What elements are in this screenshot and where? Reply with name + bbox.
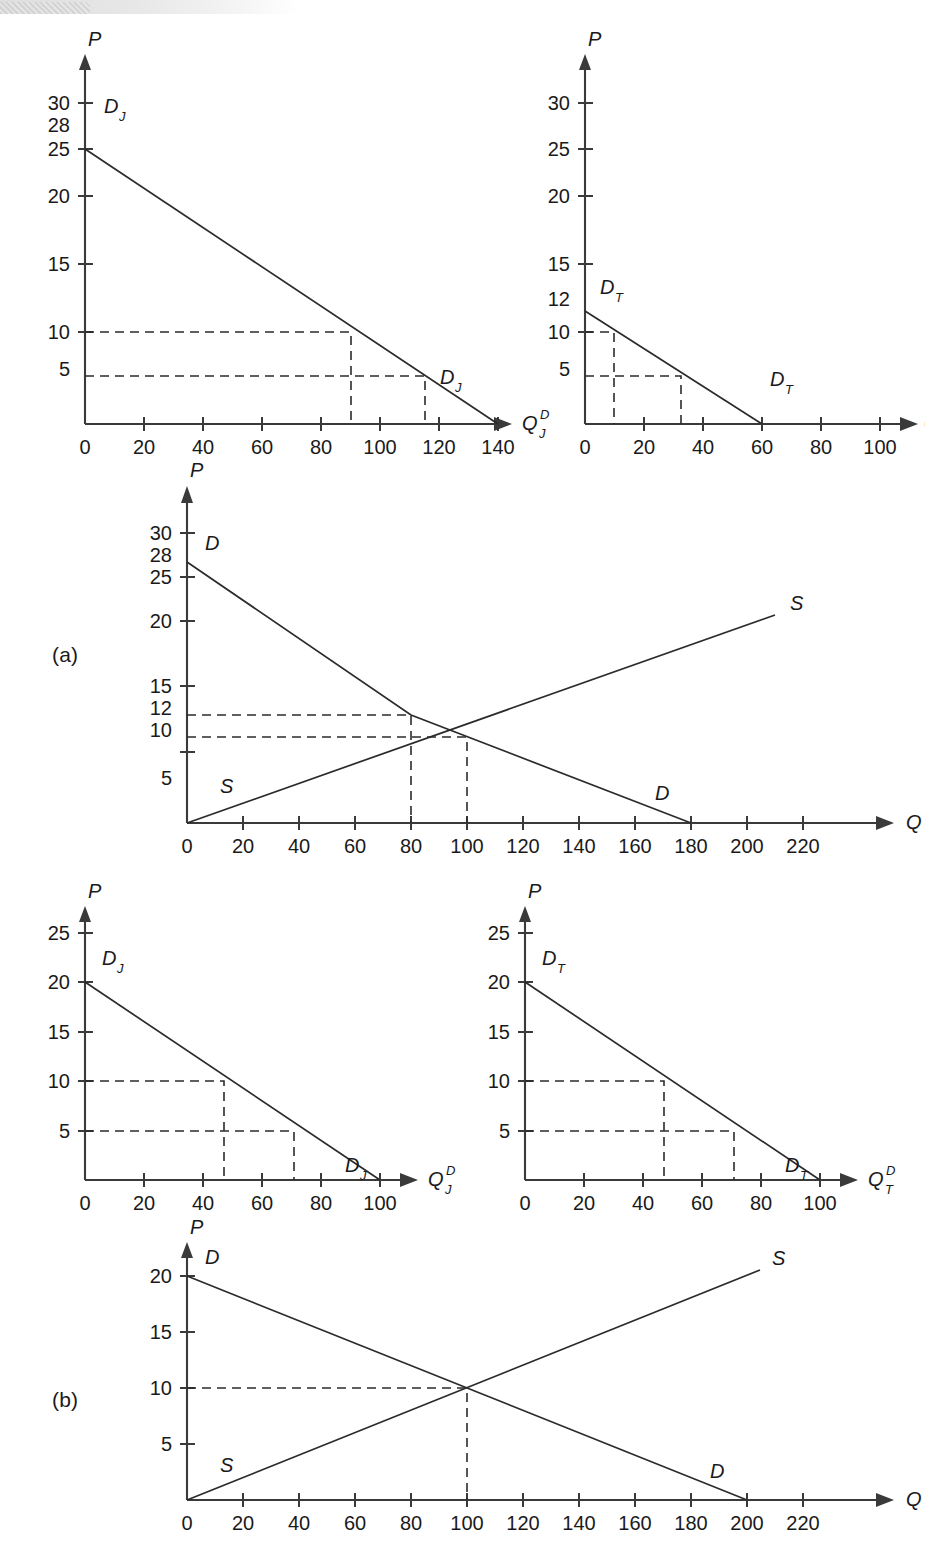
- supply-label-end: S: [772, 1247, 786, 1269]
- x-tick-label: 220: [786, 1512, 819, 1534]
- y-ticks: 30 25 20 15 12 10 5: [548, 92, 593, 380]
- y-tick-label: 12: [548, 288, 570, 310]
- x-tick-label: 60: [344, 835, 366, 857]
- x-tick-label: 100: [363, 1192, 396, 1214]
- x-axis-arrow: [900, 417, 918, 431]
- axes: [181, 1242, 894, 1507]
- curve-label-top-sub: T: [557, 961, 566, 976]
- chart-teen-demand-top: 30 25 20 15 12 10 5 0 20 40 60 80 100 P …: [500, 36, 925, 456]
- y-axis-arrow: [579, 54, 591, 70]
- y-tick-label: 10: [48, 1070, 70, 1092]
- x-tick-label: 220: [786, 835, 819, 857]
- y-ticks: 20 15 10 5: [150, 1265, 195, 1455]
- x-tick-label: 20: [573, 1192, 595, 1214]
- y-axis-arrow: [181, 486, 193, 503]
- curve-label-end: D T: [770, 368, 794, 397]
- y-tick-label: 20: [150, 610, 172, 632]
- supply-curve-market: [187, 615, 775, 823]
- demand-curve-junior-b: [85, 982, 380, 1180]
- x-axis-arrow: [840, 1173, 858, 1187]
- supply-label-start: S: [220, 775, 234, 797]
- curve-label-end-base: D: [770, 368, 784, 390]
- y-tick-label: 10: [150, 719, 172, 741]
- x-tick-label: 140: [562, 835, 595, 857]
- curve-label-end: D J: [440, 366, 462, 395]
- y-tick-label: 10: [150, 1377, 172, 1399]
- x-tick-label: 20: [232, 1512, 254, 1534]
- curve-label-top-base: D: [102, 947, 116, 969]
- y-ticks: 25 20 15 10 5: [488, 922, 533, 1142]
- chart-market-b: 20 15 10 5 0 20 40 60 80 100 120 140 160…: [100, 1220, 925, 1547]
- y-tick-label: 25: [48, 138, 70, 160]
- demand-curve-teen-b: [525, 982, 820, 1180]
- x-tick-label: 20: [232, 835, 254, 857]
- x-tick-label: 140: [562, 1512, 595, 1534]
- curve-label-top: D T: [542, 947, 566, 976]
- y-axis-arrow: [181, 1242, 193, 1258]
- demand-label-top: D: [205, 532, 219, 554]
- x-tick-label: 200: [730, 835, 763, 857]
- axes: [181, 486, 894, 830]
- x-axis-arrow: [876, 1493, 894, 1507]
- x-tick-label: 40: [288, 835, 310, 857]
- panel-label-b: (b): [52, 1388, 78, 1412]
- y-tick-label: 20: [488, 971, 510, 993]
- y-tick-label: 25: [488, 922, 510, 944]
- x-tick-label: 160: [618, 1512, 651, 1534]
- curve-label-top-sub: J: [118, 109, 126, 124]
- x-axis-arrow: [876, 816, 894, 830]
- y-axis-arrow: [519, 906, 531, 922]
- y-tick-label: 10: [548, 321, 570, 343]
- y-tick-label: 20: [150, 1265, 172, 1287]
- curve-label-top-sub: J: [116, 961, 124, 976]
- supply-curve-market-b: [187, 1270, 760, 1500]
- y-ticks: 25 20 15 10 5: [48, 922, 93, 1142]
- y-tick-label: 15: [48, 253, 70, 275]
- curve-label-end-base: D: [440, 366, 454, 388]
- curve-label-end-sub: T: [785, 382, 794, 397]
- y-axis-title: P: [528, 880, 542, 902]
- curve-label-top-base: D: [600, 276, 614, 298]
- y-ticks: 30 28 25 20 15 10 5: [48, 92, 93, 380]
- chart-junior-demand-top: 30 28 25 20 15 10 5 0 20 40 60 80 100 12…: [0, 36, 560, 456]
- y-tick-label: 28: [150, 544, 172, 566]
- y-tick-label: 5: [59, 358, 70, 380]
- y-tick-label: 15: [48, 1021, 70, 1043]
- x-axis-arrow: [400, 1173, 418, 1187]
- y-tick-label: 25: [150, 566, 172, 588]
- dashed-guides: [525, 1081, 734, 1180]
- curve-label-top: D J: [104, 95, 126, 124]
- x-tick-label: 60: [251, 1192, 273, 1214]
- x-tick-label: 200: [730, 1512, 763, 1534]
- curve-label-end-base: D: [345, 1154, 359, 1176]
- curve-label-end-base: D: [785, 1154, 799, 1176]
- x-axis-title-subscript: T: [885, 1182, 894, 1197]
- x-tick-label: 120: [506, 1512, 539, 1534]
- y-tick-label: 5: [499, 1120, 510, 1142]
- dashed-guides: [85, 1081, 294, 1180]
- dashed-guides: [187, 715, 467, 823]
- x-tick-label: 120: [506, 835, 539, 857]
- x-axis-title: Q D T: [868, 1163, 895, 1197]
- y-tick-label: 10: [48, 321, 70, 343]
- y-tick-label: 30: [150, 522, 172, 544]
- x-tick-label: 0: [79, 1192, 90, 1214]
- y-tick-label: 5: [161, 767, 172, 789]
- y-tick-label: 20: [48, 185, 70, 207]
- demand-curve-market: [187, 562, 691, 823]
- supply-label-end: S: [790, 592, 804, 614]
- chart-market-a: 30 28 25 20 15 12 10 5 0 20 40 60 80 100…: [100, 455, 925, 855]
- curve-label-top: D T: [600, 276, 624, 305]
- y-tick-label: 30: [48, 92, 70, 114]
- curve-label-end-sub: J: [359, 1168, 367, 1183]
- y-tick-label: 15: [150, 1321, 172, 1343]
- axes: [579, 54, 918, 431]
- supply-label-start: S: [220, 1454, 234, 1476]
- curve-label-top-sub: T: [615, 290, 624, 305]
- x-tick-label: 20: [133, 1192, 155, 1214]
- dashed-guides: [585, 332, 681, 424]
- panel-label-a: (a): [52, 643, 78, 667]
- x-tick-label: 80: [400, 835, 422, 857]
- x-axis-title-superscript: D: [886, 1163, 895, 1178]
- y-axis-title: P: [588, 28, 602, 50]
